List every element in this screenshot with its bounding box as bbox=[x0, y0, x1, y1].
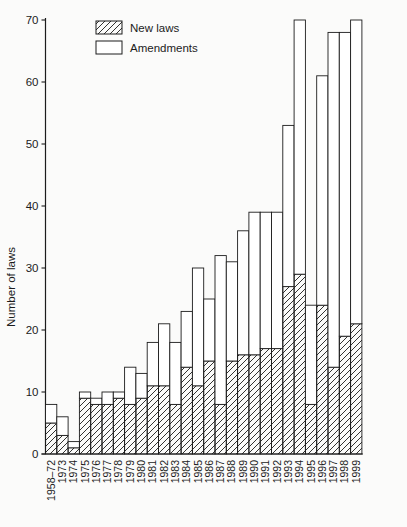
x-tick-label: 1980 bbox=[135, 460, 147, 484]
y-tick-label: 0 bbox=[32, 448, 38, 460]
bar-1984-new-laws bbox=[181, 367, 192, 454]
x-tick-label: 1974 bbox=[67, 460, 79, 484]
bar-1982-new-laws bbox=[159, 386, 170, 454]
bar-1993-new-laws bbox=[283, 287, 294, 454]
bar-1994-amendments bbox=[294, 20, 305, 274]
bar-1984-amendments bbox=[181, 311, 192, 367]
bar-1980-new-laws bbox=[136, 398, 147, 454]
bar-1975-new-laws bbox=[79, 398, 90, 454]
legend: New laws Amendments bbox=[96, 21, 198, 54]
bar-1981-amendments bbox=[147, 342, 158, 385]
bar-1985-amendments bbox=[192, 268, 203, 386]
x-tick-label: 1988 bbox=[225, 460, 237, 484]
x-axis: 1958–72197319741975197619771978197919801… bbox=[42, 454, 363, 501]
x-tick-label: 1996 bbox=[316, 460, 328, 484]
bar-1958–72-amendments bbox=[46, 404, 57, 423]
bar-1988-new-laws bbox=[226, 361, 237, 454]
bar-1982-amendments bbox=[159, 324, 170, 386]
legend-label-amendments: Amendments bbox=[130, 42, 198, 54]
x-tick-label: 1978 bbox=[112, 460, 124, 484]
bar-1983-amendments bbox=[170, 342, 181, 404]
bar-1989-amendments bbox=[238, 231, 249, 355]
bar-series bbox=[46, 20, 362, 454]
bar-1998-amendments bbox=[339, 32, 350, 336]
bar-1998-new-laws bbox=[339, 336, 350, 454]
y-tick-label: 70 bbox=[26, 14, 39, 26]
bar-1999-new-laws bbox=[351, 324, 362, 454]
x-tick-label: 1992 bbox=[271, 460, 283, 484]
bar-1995-new-laws bbox=[305, 404, 316, 454]
bar-1986-amendments bbox=[204, 299, 215, 361]
bar-1983-new-laws bbox=[170, 404, 181, 454]
bar-1985-new-laws bbox=[192, 386, 203, 454]
x-tick-label: 1994 bbox=[293, 460, 305, 484]
bar-1991-amendments bbox=[260, 212, 271, 348]
y-tick-label: 40 bbox=[26, 200, 39, 212]
bar-1992-new-laws bbox=[272, 349, 283, 454]
bar-1987-amendments bbox=[215, 256, 226, 405]
y-tick-label: 10 bbox=[26, 386, 39, 398]
x-tick-label: 1973 bbox=[56, 460, 68, 484]
bar-1997-new-laws bbox=[328, 367, 339, 454]
bar-1989-new-laws bbox=[238, 355, 249, 454]
bar-1973-new-laws bbox=[57, 435, 68, 454]
x-tick-label: 1999 bbox=[350, 460, 362, 484]
x-tick-label: 1958–72 bbox=[45, 460, 57, 501]
bar-1980-amendments bbox=[136, 373, 147, 398]
y-axis: 010203040506070 bbox=[26, 14, 46, 460]
bar-1990-new-laws bbox=[249, 355, 260, 454]
bar-1986-new-laws bbox=[204, 361, 215, 454]
bar-1958–72-new-laws bbox=[46, 423, 57, 454]
bar-1994-new-laws bbox=[294, 274, 305, 454]
x-tick-label: 1995 bbox=[305, 460, 317, 484]
bar-1978-new-laws bbox=[113, 398, 124, 454]
x-tick-label: 1984 bbox=[180, 460, 192, 484]
x-tick-label: 1990 bbox=[248, 460, 260, 484]
bar-1976-amendments bbox=[91, 398, 102, 404]
y-tick-label: 30 bbox=[26, 262, 39, 274]
bar-1988-amendments bbox=[226, 262, 237, 361]
bar-1996-amendments bbox=[317, 76, 328, 305]
bar-1993-amendments bbox=[283, 125, 294, 286]
bar-1976-new-laws bbox=[91, 404, 102, 454]
bar-1987-new-laws bbox=[215, 404, 226, 454]
bar-1997-amendments bbox=[328, 32, 339, 367]
y-tick-label: 50 bbox=[26, 138, 39, 150]
x-tick-label: 1976 bbox=[90, 460, 102, 484]
bar-1990-amendments bbox=[249, 212, 260, 355]
x-tick-label: 1985 bbox=[192, 460, 204, 484]
bar-1999-amendments bbox=[351, 20, 362, 324]
x-tick-label: 1975 bbox=[79, 460, 91, 484]
bar-1974-amendments bbox=[68, 442, 79, 448]
chart-figure: 010203040506070 1958–7219731974197519761… bbox=[0, 0, 407, 527]
x-tick-label: 1987 bbox=[214, 460, 226, 484]
stacked-bar-chart: 010203040506070 1958–7219731974197519761… bbox=[0, 0, 407, 527]
bar-1977-new-laws bbox=[102, 404, 113, 454]
bar-1992-amendments bbox=[272, 212, 283, 348]
legend-swatch-amendments bbox=[96, 41, 122, 54]
bar-1979-amendments bbox=[125, 367, 136, 404]
bar-1991-new-laws bbox=[260, 349, 271, 454]
bar-1973-amendments bbox=[57, 417, 68, 436]
y-axis-title: Number of laws bbox=[5, 247, 17, 327]
x-tick-label: 1998 bbox=[338, 460, 350, 484]
bar-1981-new-laws bbox=[147, 386, 158, 454]
bar-1995-amendments bbox=[305, 305, 316, 404]
bar-1996-new-laws bbox=[317, 305, 328, 454]
x-tick-label: 1989 bbox=[237, 460, 249, 484]
bar-1975-amendments bbox=[79, 392, 90, 398]
bar-1977-amendments bbox=[102, 392, 113, 404]
y-tick-label: 20 bbox=[26, 324, 39, 336]
x-tick-label: 1991 bbox=[259, 460, 271, 484]
bar-1978-amendments bbox=[113, 392, 124, 398]
bar-1974-new-laws bbox=[68, 448, 79, 454]
y-tick-label: 60 bbox=[26, 76, 39, 88]
x-tick-label: 1981 bbox=[146, 460, 158, 484]
x-tick-label: 1997 bbox=[327, 460, 339, 484]
legend-label-new-laws: New laws bbox=[130, 22, 179, 34]
x-tick-label: 1986 bbox=[203, 460, 215, 484]
x-tick-label: 1993 bbox=[282, 460, 294, 484]
legend-swatch-new-laws bbox=[96, 21, 122, 34]
x-tick-label: 1977 bbox=[101, 460, 113, 484]
bar-1979-new-laws bbox=[125, 404, 136, 454]
